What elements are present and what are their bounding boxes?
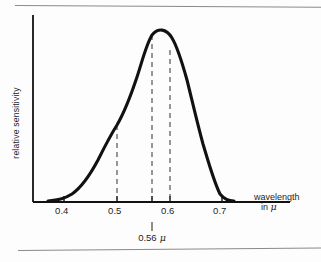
x-axis-title-line2: in μ — [254, 202, 300, 212]
x-tick-label-0: 0.4 — [55, 205, 69, 216]
micron-symbol-axis: μ — [271, 201, 277, 212]
x-axis-title-line1: wavelength — [254, 192, 300, 202]
x-tick-label-3: 0.7 — [213, 205, 227, 216]
sensitivity-curve-path — [48, 30, 234, 201]
peak-annotation: 0.56μ — [112, 232, 192, 243]
micron-symbol-annotation: μ — [157, 232, 166, 243]
figure-root: relative sensitivity 0.4 0.5 0.6 0.7 wav… — [0, 0, 321, 262]
x-axis-title-prefix: in — [261, 202, 271, 212]
x-tick-label-2: 0.6 — [161, 205, 175, 216]
plot-area — [0, 0, 321, 262]
x-tick-label-1: 0.5 — [108, 205, 122, 216]
peak-annotation-value: 0.56 — [138, 232, 157, 243]
x-axis-title: wavelength in μ — [254, 192, 300, 212]
y-axis-label: relative sensitivity — [11, 73, 21, 173]
